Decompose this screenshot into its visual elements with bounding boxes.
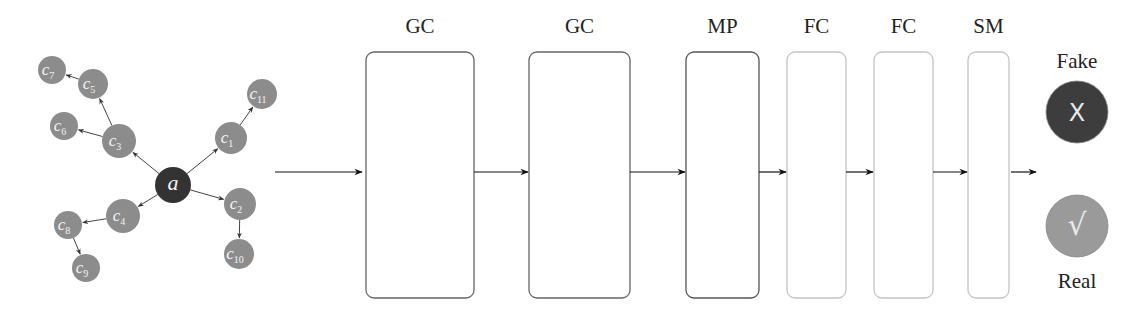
node-label: a xyxy=(168,170,179,195)
node-c2: c2 xyxy=(224,188,256,220)
network-layers: GCGCMPFCFCSM xyxy=(366,14,1009,298)
real-label: Real xyxy=(1058,269,1097,293)
output-classes: XFake√Real xyxy=(1046,49,1108,293)
layer-gc-2: GC xyxy=(529,14,630,298)
layer-gc-1: GC xyxy=(366,14,474,298)
node-c10: c10 xyxy=(224,239,254,269)
layer-sm-6: SM xyxy=(968,14,1009,298)
edge-a-c2 xyxy=(190,190,223,199)
layer-label: MP xyxy=(707,14,737,38)
graph-nodes: ac1c2c3c4c5c6c7c8c9c10c11 xyxy=(38,56,277,282)
edge-c8-c9 xyxy=(73,238,80,254)
edge-a-c1 xyxy=(187,149,218,174)
layer-label: GC xyxy=(565,14,594,38)
edge-c5-c7 xyxy=(66,75,79,79)
node-c1: c1 xyxy=(215,122,247,154)
layer-fc-5: FC xyxy=(874,14,933,298)
node-c3: c3 xyxy=(102,124,136,158)
node-a: a xyxy=(155,167,191,203)
output-fake: XFake xyxy=(1046,49,1108,143)
layer-mp-3: MP xyxy=(686,14,759,298)
output-real: √Real xyxy=(1046,195,1108,293)
node-c6: c6 xyxy=(50,112,78,140)
node-c5: c5 xyxy=(78,69,108,99)
graph-edges xyxy=(66,75,253,254)
cross-icon: X xyxy=(1069,99,1085,127)
layer-label: FC xyxy=(891,14,917,38)
edge-c1-c11 xyxy=(240,107,253,125)
layer-label: SM xyxy=(973,14,1004,38)
edge-a-c3 xyxy=(133,152,159,173)
node-c4: c4 xyxy=(106,199,140,233)
node-c8: c8 xyxy=(54,211,82,239)
layer-fc-4: FC xyxy=(787,14,846,298)
edge-c4-c8 xyxy=(83,219,106,223)
edge-c3-c5 xyxy=(100,99,112,126)
node-c7: c7 xyxy=(38,56,66,84)
checkmark-icon: √ xyxy=(1067,207,1087,242)
edge-c3-c6 xyxy=(78,130,102,137)
layer-label: GC xyxy=(405,14,434,38)
node-c9: c9 xyxy=(72,254,100,282)
node-c11: c11 xyxy=(247,79,277,109)
gnn-fake-detection-diagram: ac1c2c3c4c5c6c7c8c9c10c11 GCGCMPFCFCSM X… xyxy=(0,0,1145,318)
edge-a-c4 xyxy=(138,194,157,206)
fake-label: Fake xyxy=(1057,49,1098,73)
layer-label: FC xyxy=(804,14,830,38)
